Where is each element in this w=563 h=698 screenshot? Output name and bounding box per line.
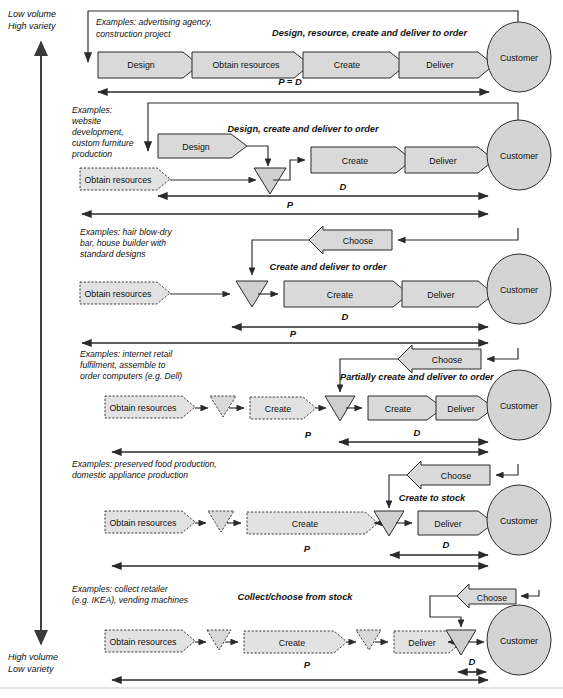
row6-customer-label: Customer	[500, 636, 538, 646]
row5-stage-create-label: Create	[292, 519, 319, 529]
axis-top-label-line2: High variety	[8, 21, 56, 31]
row3-examples-line3: standard designs	[80, 249, 146, 259]
row3-measure-d: D	[342, 311, 349, 322]
row3-customer-label: Customer	[500, 285, 538, 295]
axis-bottom-label-line2: Low variety	[8, 664, 54, 674]
row4-stage-create-label: Create	[385, 404, 412, 414]
row-collect-choose-from-stock: Examples: collect retailer (e.g. IKEA), …	[72, 584, 551, 680]
row1-measure-p-equals-d: P = D	[278, 76, 302, 87]
row5-measure-d: D	[443, 539, 450, 550]
row6-caption: Collect/choose from stock	[238, 592, 354, 602]
row1-caption: Design, resource, create and deliver to …	[272, 28, 467, 38]
row5-choose-label: Choose	[441, 471, 471, 481]
row3-choose-label: Choose	[343, 236, 373, 246]
row3-stage-obtain-resources-label: Obtain resources	[85, 289, 153, 299]
row4-stage-obtain-resources-label: Obtain resources	[110, 403, 178, 413]
row2-customer-label: Customer	[500, 151, 538, 161]
row4-caption: Partially create and deliver to order	[340, 372, 494, 382]
row-partially-create-and-deliver-to-order: Examples: internet retail fulfilment, as…	[80, 345, 551, 452]
row4-customer-label: Customer	[500, 401, 538, 411]
pd-ratio-diagram: Low volume High variety High volume Low …	[0, 0, 563, 698]
row6-stage-obtain-resources-label: Obtain resources	[110, 637, 178, 647]
row6-choose-label: Choose	[477, 593, 507, 603]
row5-customer-label: Customer	[500, 516, 538, 526]
row2-stage-create-label: Create	[342, 156, 369, 166]
volume-variety-axis: Low volume High variety High volume Low …	[8, 9, 58, 674]
row2-examples-line4: custom furniture	[72, 138, 134, 148]
row1-stage-design-label: Design	[127, 60, 154, 70]
row5-inventory-triangle-1	[208, 511, 234, 532]
row2-stage-deliver-label: Deliver	[429, 156, 456, 166]
row2-measure-p: P	[287, 199, 294, 210]
row2-examples-line3: development,	[72, 127, 124, 137]
row6-measure-d: D	[469, 656, 476, 667]
row3-examples-line1: Examples: hair blow-dry	[80, 227, 172, 237]
row-design-resource-create-deliver-to-order: Examples: advertising agency, constructi…	[88, 11, 551, 92]
row4-examples-line3: order computers (e.g. Dell)	[80, 371, 182, 381]
row6-inventory-triangle-1	[207, 630, 231, 650]
row2-stage-obtain-resources-label: Obtain resources	[85, 175, 153, 185]
row3-stage-create-label: Create	[327, 290, 354, 300]
row4-measure-p: P	[305, 429, 312, 440]
row4-examples-line1: Examples: internet retail	[80, 349, 173, 359]
row3-examples-line2: bar, house builder with	[80, 238, 166, 248]
diagram-canvas: Low volume High variety High volume Low …	[0, 0, 563, 698]
row3-measure-p: P	[290, 328, 297, 339]
row2-stage-design-label: Design	[182, 142, 209, 152]
row4-choose-label: Choose	[432, 355, 462, 365]
row1-stage-deliver-label: Deliver	[426, 60, 453, 70]
row1-examples-line2: construction project	[96, 29, 171, 39]
axis-bottom-label-line1: High volume	[8, 652, 58, 662]
row1-stage-create-label: Create	[334, 60, 361, 70]
row6-stage-create-label: Create	[279, 638, 306, 648]
row-design-create-deliver-to-order: Examples: website development, custom fu…	[71, 103, 551, 214]
row1-customer-label: Customer	[500, 53, 538, 63]
row6-examples-line2: (e.g. IKEA), vending machines	[72, 595, 189, 605]
row6-measure-p: P	[304, 659, 311, 670]
row2-measure-d: D	[340, 181, 347, 192]
row-create-and-deliver-to-order: Examples: hair blow-dry bar, house build…	[80, 226, 551, 343]
row5-caption: Create to stock	[399, 493, 466, 503]
row6-inventory-triangle-2	[356, 630, 381, 650]
row2-caption: Design, create and deliver to order	[227, 124, 379, 134]
row4-stage-create-partial-label: Create	[265, 404, 292, 414]
row5-stage-deliver-label: Deliver	[434, 519, 461, 529]
row1-stage-obtain-resources-label: Obtain resources	[213, 60, 281, 70]
row6-examples-line1: Examples: collect retailer	[72, 584, 169, 594]
row4-stage-deliver-label: Deliver	[447, 404, 474, 414]
row5-examples-line2: domestic appliance production	[72, 470, 188, 480]
row4-examples-line2: fulfilment, assemble to	[80, 360, 166, 370]
row6-stage-deliver-label: Deliver	[408, 638, 435, 648]
row2-examples-line1: Examples:	[72, 105, 113, 115]
row5-stage-obtain-resources-label: Obtain resources	[110, 518, 178, 528]
row5-measure-p: P	[304, 543, 311, 554]
row3-stage-deliver-label: Deliver	[427, 290, 454, 300]
row4-measure-d: D	[414, 427, 421, 438]
row4-inventory-triangle-1	[210, 396, 236, 417]
row-create-to-stock: Examples: preserved food production, dom…	[72, 459, 551, 566]
axis-top-label-line1: Low volume	[8, 9, 56, 19]
row5-examples-line1: Examples: preserved food production,	[72, 459, 217, 469]
row2-examples-line5: production	[71, 149, 112, 159]
row1-examples-line1: Examples: advertising agency,	[96, 17, 212, 27]
row2-examples-line2: website	[72, 116, 101, 126]
row2-inventory-triangle	[254, 168, 286, 194]
row3-caption: Create and deliver to order	[270, 262, 387, 272]
